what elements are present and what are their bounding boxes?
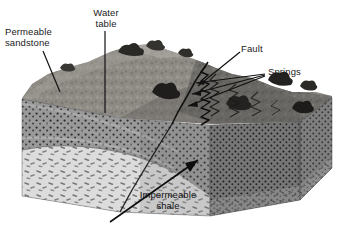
label-springs: Springs: [268, 67, 301, 78]
label-water-table: Water table: [84, 8, 128, 29]
figure-canvas: Permeable sandstone Water table Fault Sp…: [0, 0, 357, 247]
label-fault: Fault: [241, 44, 263, 55]
label-permeable-sandstone: Permeable sandstone: [5, 27, 52, 48]
label-impermeable-shale: Impermeable shale: [136, 190, 200, 211]
